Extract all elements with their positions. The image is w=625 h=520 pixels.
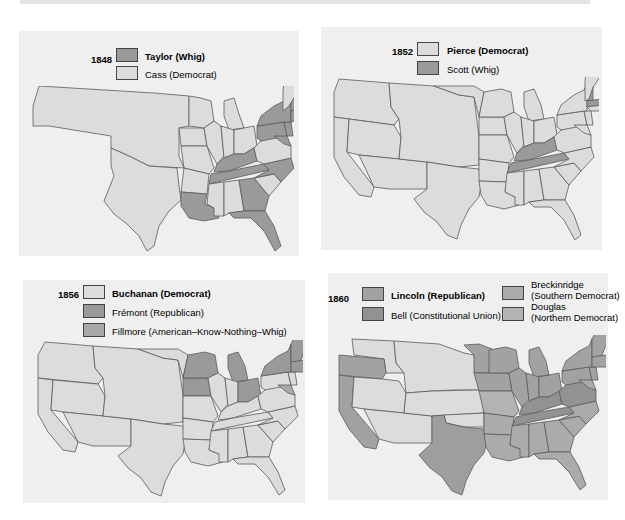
legend-swatch-scott [417, 61, 439, 75]
legend-swatch-bell [362, 307, 384, 321]
legend-swatch-lincoln [362, 287, 384, 301]
legend-year: 1860 [328, 293, 349, 304]
us-map-1848 [29, 86, 294, 256]
legend-label-cass: Cass (Democrat) [145, 69, 217, 80]
legend-swatch-pierce [417, 42, 439, 56]
legend-label-taylor: Taylor (Whig) [145, 51, 205, 62]
legend-label-breckinridge-line2: (Southern Democrat) [531, 290, 620, 301]
legend-label-douglas-line2: (Northern Democrat) [531, 312, 618, 323]
legend-year: 1856 [58, 289, 79, 300]
legend-swatch-cass [116, 66, 138, 80]
us-map-1852 [329, 77, 599, 249]
legend-label-bell: Bell (Constitutional Union) [391, 310, 501, 321]
legend-label-buchanan: Buchanan (Democrat) [112, 288, 211, 299]
top-strip [20, 0, 590, 4]
map-panel-1860: 1860 Lincoln (Republican) Bell (Constitu… [328, 273, 608, 500]
legend-swatch-breckinridge [502, 286, 524, 300]
legend-label-breckinridge-line1: Breckinridge [531, 279, 584, 290]
legend-swatch-buchanan [83, 285, 105, 299]
us-map-1860 [334, 335, 606, 497]
map-panel-1856: 1856 Buchanan (Democrat) Frémont (Republ… [23, 280, 305, 503]
legend-label-pierce: Pierce (Democrat) [447, 45, 528, 56]
map-panel-1852: 1852 Pierce (Democrat) Scott (Whig) [321, 27, 602, 250]
legend-label-scott: Scott (Whig) [447, 64, 499, 75]
legend-swatch-taylor [116, 48, 138, 62]
legend-swatch-douglas [502, 307, 524, 321]
legend-label-fillmore: Fillmore (American–Know-Nothing–Whig) [112, 326, 287, 337]
legend-swatch-fremont [83, 304, 105, 318]
us-map-1856 [33, 340, 303, 500]
map-panel-1848: 1848 Taylor (Whig) Cass (Democrat) [19, 31, 299, 256]
legend-year: 1848 [91, 54, 112, 65]
legend-label-fremont: Frémont (Republican) [112, 307, 204, 318]
legend-label-lincoln: Lincoln (Republican) [391, 290, 485, 301]
legend-year: 1852 [392, 46, 413, 57]
legend-swatch-fillmore [83, 323, 105, 337]
legend-label-douglas-line1: Douglas [531, 301, 566, 312]
